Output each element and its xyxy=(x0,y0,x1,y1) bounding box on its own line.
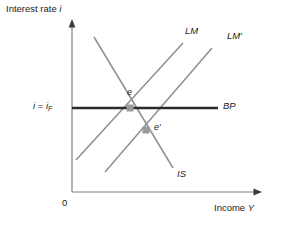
x-axis-title-symbol: Y xyxy=(248,202,254,213)
is-curve xyxy=(94,37,173,168)
y-axis-title-text: Interest rate xyxy=(6,3,59,14)
point-marker-e xyxy=(127,105,134,112)
curve-label-bp: BP xyxy=(223,101,236,111)
lm-curve xyxy=(76,43,183,160)
curve-label-lm-prime: LM′ xyxy=(227,31,242,41)
x-axis-title-text: Income xyxy=(214,202,248,213)
y-axis-title: Interest rate i xyxy=(6,4,61,14)
origin-label: 0 xyxy=(62,198,67,208)
if-label-rhs-subscript: F xyxy=(48,105,52,112)
y-axis-value-label-if: i = iF xyxy=(33,101,52,113)
y-axis-title-symbol: i xyxy=(59,3,61,14)
point-label-e: e xyxy=(127,88,132,97)
x-axis-title: Income Y xyxy=(214,203,254,213)
curve-label-is: IS xyxy=(177,169,186,179)
curve-label-lm: LM xyxy=(185,26,198,36)
point-marker-e-prime xyxy=(143,127,150,134)
point-label-e-prime: e′ xyxy=(154,123,161,132)
if-label-equals: = xyxy=(35,100,46,111)
x-axis-arrowhead xyxy=(254,189,263,196)
y-axis-arrowhead xyxy=(69,19,76,28)
mundell-fleming-figure: Interest rate i Income Y 0 i = iF LM LM′… xyxy=(0,0,281,226)
